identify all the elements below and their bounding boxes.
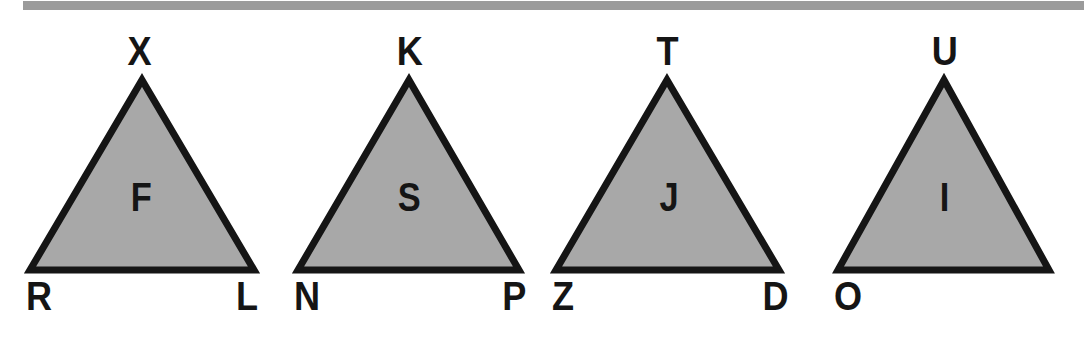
- triangle-2-inner-label: S: [398, 177, 421, 217]
- triangle-group-2: K S N P: [268, 0, 568, 344]
- triangle-2-bottom-left-label: N: [294, 276, 320, 317]
- triangle-1-apex-label: X: [128, 31, 152, 72]
- triangle-group-3: T J Z D: [526, 0, 826, 344]
- triangle-1-inner-label: F: [131, 177, 152, 217]
- triangle-4-apex-label: U: [932, 31, 958, 72]
- triangle-group-1: X F R L: [0, 0, 300, 344]
- triangle-group-4: U I O: [808, 0, 1084, 344]
- triangle-3-bottom-right-label: D: [762, 276, 788, 317]
- triangle-3-bottom-left-label: Z: [552, 276, 574, 317]
- triangle-figure: X F R L K S N P T J Z D U I O: [0, 0, 1084, 344]
- triangle-3-apex-label: T: [656, 31, 678, 72]
- triangle-1-bottom-right-label: L: [236, 276, 258, 317]
- triangle-3-inner-label: J: [660, 177, 679, 217]
- triangle-1-bottom-left-label: R: [26, 276, 52, 317]
- triangle-2-apex-label: K: [397, 31, 423, 72]
- triangle-4-bottom-left-label: O: [834, 276, 862, 317]
- triangle-2-bottom-right-label: P: [502, 276, 526, 317]
- triangle-4-inner-label: I: [940, 177, 949, 217]
